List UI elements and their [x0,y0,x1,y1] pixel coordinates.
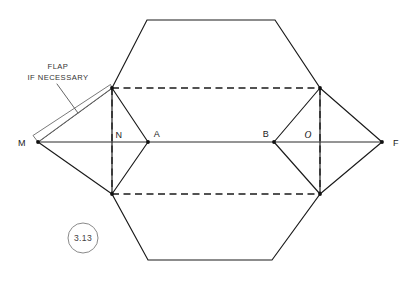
vertex-dot-top-right [318,86,322,90]
vertex-label-o: O [305,130,312,140]
right-diamond-lower-left-edge [274,142,320,194]
vertex-label-f: F [393,138,399,148]
right-diamond-lower-right-edge [320,142,382,194]
left-diamond-lower-left-edge [38,142,112,194]
hexagon-outline-group [112,20,320,260]
flap-group [33,85,112,143]
fold-rectangle-group [112,88,320,194]
vertex-labels-group: M N A B O F [18,129,399,148]
vertex-dot-bottom-left [110,192,114,196]
vertex-label-a: A [154,129,160,139]
left-diamond-lower-right-edge [112,142,148,194]
vertex-dot-b [272,140,276,144]
flap-leader-line [57,84,78,113]
figure-callout-group: 3.13 [68,223,98,253]
right-diamond-upper-right-edge [320,88,382,142]
left-diamond-group [38,88,148,194]
flap-note-line-2: IF NECESSARY [28,73,89,82]
vertex-dot-f [380,140,384,144]
hexagon-outline [112,20,320,260]
vertex-dot-a [146,140,150,144]
figure-container: M N A B O F FLAP IF NECESSARY 3.13 [0,0,416,282]
vertex-label-m: M [18,138,26,148]
vertex-dot-m [36,140,40,144]
vertex-label-b: B [263,129,269,139]
pattern-diagram: M N A B O F FLAP IF NECESSARY 3.13 [0,0,416,282]
vertex-dot-top-left [110,86,114,90]
flap-note-line-1: FLAP [48,62,69,71]
flap-leader-group [57,84,78,113]
flap-note-group: FLAP IF NECESSARY [28,62,89,82]
right-diamond-upper-left-edge [274,88,320,142]
flap-sliver-shape [33,85,112,143]
figure-callout-number: 3.13 [74,233,92,243]
right-diamond-group [274,88,382,194]
vertex-label-n: N [116,130,123,140]
vertex-dot-bottom-right [318,192,322,196]
